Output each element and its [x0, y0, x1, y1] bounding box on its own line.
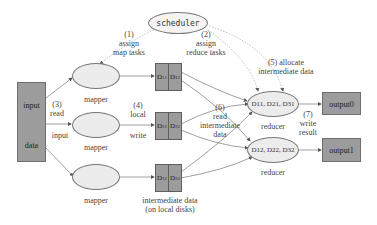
data-label: data	[18, 141, 45, 150]
step4-label: (4) local	[122, 101, 154, 119]
output0-box: output0	[322, 92, 361, 115]
mapper-node-2	[72, 112, 120, 138]
intermediate-caption: intermediate data (on local disks)	[130, 196, 210, 214]
intermediate-caption-line2: (on local disks)	[130, 205, 210, 214]
step6-line2: intermediate	[190, 121, 250, 130]
mapper-node-1	[72, 63, 120, 89]
step4-line1: local	[122, 110, 154, 119]
step5-line1: intermediate data	[246, 67, 326, 76]
step3-label: (3) read	[46, 100, 68, 118]
step7-num: (7)	[292, 110, 324, 119]
mapper-label-1: mapper	[80, 95, 112, 104]
intermediate-caption-line1: intermediate data	[130, 196, 210, 205]
mapper-label-3: mapper	[80, 196, 112, 205]
reducer-label-1: reducer	[255, 168, 291, 177]
reducer-node-0: D11, D21, D31	[247, 91, 299, 117]
reducer0-inputs: D11, D21, D31	[252, 100, 295, 108]
reducer-node-1: D12, D22, D32	[247, 137, 299, 163]
step1-label: (1) assign map tasks	[104, 30, 154, 57]
step2-line2: reduce tasks	[176, 48, 236, 57]
step4-write-label: write	[124, 131, 152, 140]
step2-line1: assign	[176, 39, 236, 48]
step5-label: (5) allocate intermediate data	[246, 58, 326, 76]
mapper-node-3	[72, 164, 120, 190]
step2-label: (2) assign reduce tasks	[176, 30, 236, 57]
output1-box: output1	[322, 138, 361, 162]
step7-line1: write	[292, 119, 324, 128]
step4-num: (4)	[122, 101, 154, 110]
step3-num: (3)	[46, 100, 68, 109]
partition-box-3: D31 D32	[155, 164, 182, 192]
step6-line3: data	[190, 130, 250, 139]
step6-num: (6)	[190, 103, 250, 112]
partition-box-2: D21 D22	[155, 112, 182, 140]
step5-num: (5) allocate	[246, 58, 326, 67]
step1-line1: assign	[104, 39, 154, 48]
scheduler-label: scheduler	[156, 19, 199, 28]
step3-input-label: input	[46, 131, 74, 140]
partition-d22: D22	[168, 113, 181, 139]
output0-label: output0	[323, 100, 360, 109]
step1-num: (1)	[104, 30, 154, 39]
step3-line1: read	[46, 109, 68, 118]
partition-d31: D31	[156, 165, 168, 191]
step7-line2: result	[292, 128, 324, 137]
step2-num: (2)	[176, 30, 236, 39]
step6-line1: read	[190, 112, 250, 121]
step7-label: (7) write result	[292, 110, 324, 137]
reducer1-inputs: D12, D22, D32	[251, 146, 294, 154]
partition-d11: D11	[156, 64, 168, 90]
partition-d21: D21	[156, 113, 168, 139]
step1-line2: map tasks	[104, 48, 154, 57]
partition-box-1: D11 D12	[155, 63, 182, 91]
input-data-box: input data	[17, 82, 46, 162]
partition-d32: D32	[168, 165, 181, 191]
step6-label: (6) read intermediate data	[190, 103, 250, 139]
output1-label: output1	[323, 146, 360, 155]
reducer-label-0: reducer	[255, 122, 291, 131]
partition-d12: D12	[168, 64, 181, 90]
mapper-label-2: mapper	[80, 143, 112, 152]
input-label: input	[18, 101, 45, 110]
